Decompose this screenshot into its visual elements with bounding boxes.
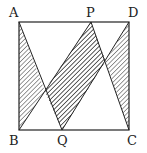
- shaded-triangle-right: [106, 22, 129, 130]
- label-p: P: [86, 5, 95, 20]
- label-a: A: [8, 5, 19, 20]
- label-c: C: [127, 133, 137, 148]
- geometry-diagram: A P D B Q C: [0, 0, 147, 153]
- label-b: B: [9, 133, 19, 148]
- label-d: D: [128, 5, 138, 20]
- label-q: Q: [57, 133, 68, 148]
